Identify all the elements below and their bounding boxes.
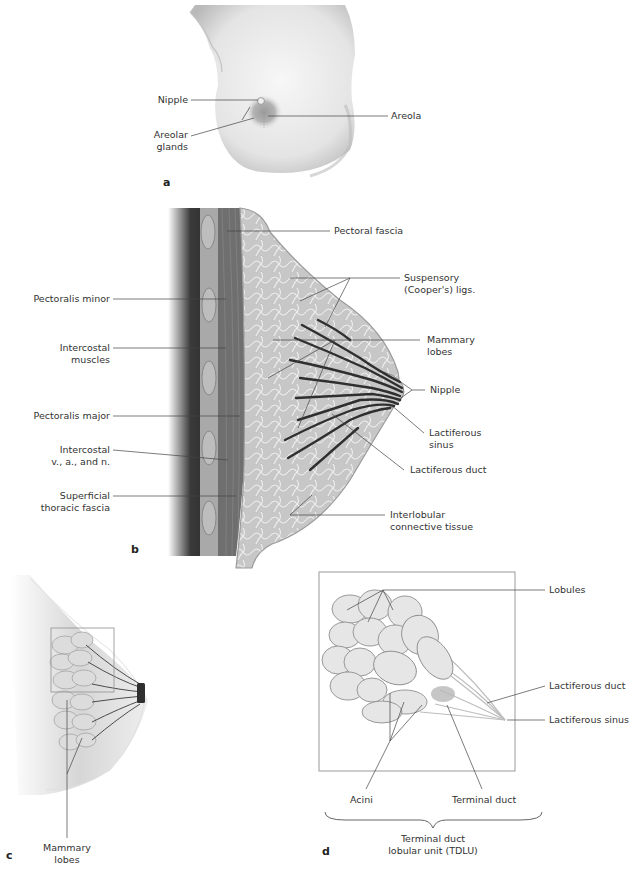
panel-letter-d: d [322,845,330,858]
label-b-pectoralis-minor: Pectoralis minor [20,293,110,305]
label-b-mammary-lobes-line2: lobes [427,346,452,358]
panel-a-illustration [190,5,388,176]
label-b-pectoral-fascia: Pectoral fascia [334,225,403,237]
panel-c-illustration [10,575,148,838]
label-c-mammary-lobes-line2: lobes [37,854,97,866]
label-b-interlobular-line2: connective tissue [390,521,473,533]
label-d-lobules: Lobules [549,584,585,596]
label-d-lactiferous-sinus: Lactiferous sinus [549,714,629,726]
label-b-superficial-fascia-line2: thoracic fascia [20,502,110,514]
nipple-shape [258,98,265,105]
label-b-intercostal-van-line1: Intercostal [20,444,110,456]
panel-letter-c: c [6,849,13,862]
label-a-nipple: Nipple [140,94,188,106]
label-b-intercostal-muscles-line1: Intercostal [20,342,110,354]
label-b-suspensory-line1: Suspensory [404,272,459,284]
panel-d-illustration [319,572,545,828]
panel-b-illustration [113,208,425,568]
label-b-pectoralis-major: Pectoralis major [20,410,110,422]
label-b-mammary-lobes-line1: Mammary [427,334,475,346]
panel-letter-a: a [163,176,170,189]
label-b-intercostal-van-line2: v., a., and n. [20,456,110,468]
label-b-suspensory-line2: (Cooper's) ligs. [404,284,475,296]
label-d-terminal-duct: Terminal duct [452,794,516,806]
label-d-tdlu-line1: Terminal duct [373,833,493,845]
label-d-lactiferous-duct: Lactiferous duct [549,680,625,692]
label-b-superficial-fascia-line1: Superficial [20,490,110,502]
label-b-lactiferous-sinus-line2: sinus [429,439,454,451]
label-b-lactiferous-duct: Lactiferous duct [410,464,486,476]
label-b-intercostal-muscles-line2: muscles [20,354,110,366]
label-a-areolar-glands-line2: glands [140,141,188,153]
label-a-areola: Areola [391,110,421,122]
label-a-areolar-glands-line1: Areolar [140,129,188,141]
label-d-tdlu-line2: lobular unit (TDLU) [373,845,493,857]
label-b-nipple: Nipple [430,384,460,396]
label-c-mammary-lobes-line1: Mammary [37,842,97,854]
label-d-acini: Acini [350,794,373,806]
label-b-interlobular-line1: Interlobular [390,509,445,521]
panel-letter-b: b [131,543,139,556]
label-b-lactiferous-sinus-line1: Lactiferous [429,427,481,439]
